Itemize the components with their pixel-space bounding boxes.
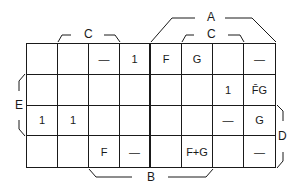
- label-c-right: C: [205, 28, 218, 40]
- cell-r2-c6: —: [213, 106, 244, 137]
- cell-r1-c4: [151, 75, 182, 106]
- cell-r0-c7: —: [244, 44, 275, 75]
- label-b: B: [145, 171, 157, 183]
- bracket-d: [277, 105, 283, 121]
- bracket-c-right: [182, 35, 194, 42]
- cell-r2-c3: [120, 106, 151, 137]
- cell-r3-c7: —: [244, 136, 275, 167]
- cell-r2-c5: [182, 106, 213, 137]
- cell-r3-c2: F: [89, 136, 120, 167]
- cell-r3-c1: [58, 136, 89, 167]
- label-d: D: [276, 130, 289, 142]
- label-c-left: C: [82, 28, 95, 40]
- bracket-a: [151, 18, 195, 42]
- cell-r2-c4: [151, 106, 182, 137]
- label-a: A: [205, 11, 217, 23]
- cell-r0-c2: —: [89, 44, 120, 75]
- cell-r3-c5: F+G: [182, 136, 213, 167]
- kmap-grid: — 1 F G — 1 F̄G 1 1 — G F — F+G —: [26, 43, 276, 168]
- cell-r1-c5: [182, 75, 213, 106]
- cell-r3-c6: [213, 136, 244, 167]
- cell-r0-c5: G: [182, 44, 213, 75]
- cell-r1-c7: F̄G: [244, 75, 275, 106]
- cell-r1-c0: [27, 75, 58, 106]
- cell-r2-c2: [89, 106, 120, 137]
- cell-r2-c1: 1: [58, 106, 89, 137]
- karnaugh-map-diagram: A C C E D B — 1 F G — 1 F̄G 1 1 — G F —: [0, 0, 299, 191]
- cell-r3-c3: —: [120, 136, 151, 167]
- cell-r3-c4: [151, 136, 182, 167]
- bracket-c-left: [58, 35, 71, 42]
- cell-r2-c0: 1: [27, 106, 58, 137]
- cell-r1-c1: [58, 75, 89, 106]
- cell-r1-c2: [89, 75, 120, 106]
- cell-r1-c3: [120, 75, 151, 106]
- cell-r3-c0: [27, 136, 58, 167]
- bracket-b: [89, 169, 132, 177]
- cell-r0-c6: [213, 44, 244, 75]
- bracket-e: [19, 74, 25, 91]
- cell-r0-c0: [27, 44, 58, 75]
- cell-r1-c6: 1: [213, 75, 244, 106]
- cell-r0-c4: F: [151, 44, 182, 75]
- cell-r0-c1: [58, 44, 89, 75]
- cell-r2-c7: G: [244, 106, 275, 137]
- label-e: E: [13, 99, 25, 111]
- cell-r0-c3: 1: [120, 44, 151, 75]
